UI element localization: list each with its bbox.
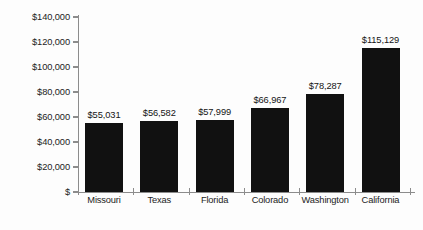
x-axis-tick [244,188,245,195]
bar-value-label: $57,999 [198,107,231,117]
bar [196,120,234,192]
bar [362,48,400,192]
y-axis-tick-label: $20,000 [37,162,70,172]
y-axis-tick [73,91,78,92]
bar-value-label: $55,031 [88,110,121,120]
y-axis-tick [73,41,78,42]
y-axis-tick [73,166,78,167]
bar-value-label: $78,287 [309,81,342,91]
y-axis-tick [73,66,78,67]
x-axis-tick [78,188,79,195]
y-axis-tick-label: $80,000 [37,87,70,97]
y-axis-tick [73,16,78,17]
y-axis-tick-label: $140,000 [32,12,70,22]
x-axis-category-label: California [362,195,400,205]
bar [85,123,123,192]
bar [306,94,344,192]
x-axis-category-label: Colorado [252,195,289,205]
x-axis-tick [355,188,356,195]
y-axis-tick-label: $40,000 [37,137,70,147]
bar-value-label: $56,582 [143,108,176,118]
y-axis-tick [73,116,78,117]
x-axis-category-label: Texas [148,195,172,205]
bar [251,108,289,192]
y-axis-tick-label: $120,000 [32,37,70,47]
bar [140,121,178,192]
x-axis-tick [189,188,190,195]
y-axis-tick [73,141,78,142]
y-axis-line [78,15,79,193]
x-axis-category-label: Washington [302,195,349,205]
x-axis-tick [299,188,300,195]
y-axis-tick-label: $100,000 [32,62,70,72]
bar-chart: $$20,000$40,000$60,000$80,000$100,000$12… [0,0,423,230]
bar-value-label: $115,129 [362,35,399,45]
x-axis-category-label: Missouri [87,195,120,205]
y-axis-tick-label: $ [65,187,70,197]
x-axis-tick [410,188,411,195]
x-axis-tick [133,188,134,195]
plot-area: $$20,000$40,000$60,000$80,000$100,000$12… [0,0,423,230]
bar-value-label: $66,967 [253,95,286,105]
x-axis-category-label: Florida [201,195,228,205]
y-axis-tick-label: $60,000 [37,112,70,122]
